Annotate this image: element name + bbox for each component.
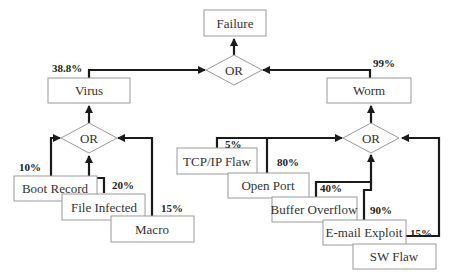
worm-probability: 99% xyxy=(373,57,395,69)
virus-or-label: OR xyxy=(80,131,98,146)
virus-or-gate: OR xyxy=(61,123,117,153)
wire-boot-record xyxy=(51,138,60,176)
virus-probability: 38.8% xyxy=(52,62,82,74)
sw-flaw-probability: 15% xyxy=(410,227,432,239)
macro-probability: 15% xyxy=(161,202,183,214)
virus-node: Virus 38.8% xyxy=(48,62,130,103)
wire-virus-to-top-or xyxy=(89,70,205,78)
tcpip-flaw-label: TCP/IP Flaw xyxy=(183,154,251,169)
virus-label: Virus xyxy=(75,83,103,98)
boot-record-probability: 10% xyxy=(19,161,41,173)
failure-label: Failure xyxy=(217,16,254,31)
sw-flaw-label: SW Flaw xyxy=(370,249,419,264)
worm-or-label: OR xyxy=(362,131,380,146)
top-or-label: OR xyxy=(225,63,243,78)
tcpip-flaw-probability: 5% xyxy=(225,138,242,150)
worm-node: Worm 99% xyxy=(327,57,411,103)
top-or-gate: OR xyxy=(206,55,262,85)
wire-worm-to-top-or xyxy=(263,70,370,78)
open-port-probability: 80% xyxy=(277,156,299,168)
failure-node: Failure xyxy=(204,10,266,36)
buffer-overflow-probability: 40% xyxy=(320,182,342,194)
open-port-label: Open Port xyxy=(241,178,294,193)
fault-tree-diagram: Failure OR OR OR Virus 38.8% Worm 99% Bo… xyxy=(0,0,454,277)
file-infected-probability: 20% xyxy=(112,179,134,191)
worm-label: Worm xyxy=(353,83,385,98)
worm-or-gate: OR xyxy=(343,123,399,153)
file-infected-label: File Infected xyxy=(71,200,138,215)
buffer-overflow-label: Buffer Overflow xyxy=(271,202,358,217)
macro-label: Macro xyxy=(135,222,169,237)
email-exploit-probability: 90% xyxy=(370,204,392,216)
email-exploit-label: E-mail Exploit xyxy=(326,225,403,240)
